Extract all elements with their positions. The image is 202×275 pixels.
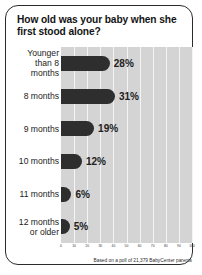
x-axis-ticks: 0102030405060708090100: [61, 244, 192, 253]
bar-value-label: 31%: [119, 91, 139, 102]
gridline: [192, 47, 193, 243]
category-label-line: 12 months: [10, 217, 59, 227]
x-tick-label: 30: [98, 244, 102, 248]
bar-row: 28%: [61, 56, 192, 71]
bar-value-label: 12%: [86, 156, 106, 167]
page-title: How old was your baby when she first sto…: [17, 14, 185, 39]
bar-row: 31%: [61, 89, 192, 104]
x-tick-label: 50: [125, 244, 129, 248]
category-label-line: 9 months: [10, 124, 59, 134]
category-label-line: months: [10, 68, 59, 78]
category-label-line: 8 months: [10, 91, 59, 101]
bar: [61, 187, 71, 202]
bar: [61, 219, 70, 234]
x-tick-label: 10: [72, 244, 76, 248]
category-label: 8 months: [10, 91, 59, 101]
bar-rows: 28%31%19%12%6%5%: [61, 47, 192, 243]
category-label-line: 11 months: [10, 189, 59, 199]
x-tick-label: 100: [189, 244, 195, 248]
x-tick-label: 40: [112, 244, 116, 248]
bar-row: 5%: [61, 219, 192, 234]
bar: [61, 154, 82, 169]
category-label-line: than 8: [10, 58, 59, 68]
x-tick-label: 80: [164, 244, 168, 248]
category-label-line: or older: [10, 227, 59, 237]
category-label: 10 months: [10, 156, 59, 166]
bar-value-label: 5%: [74, 221, 88, 232]
x-tick-label: 20: [85, 244, 89, 248]
bar-row: 19%: [61, 121, 192, 136]
x-tick-label: 70: [151, 244, 155, 248]
x-tick-label: 60: [138, 244, 142, 248]
bar: [61, 121, 94, 136]
bar-value-label: 19%: [98, 123, 118, 134]
x-tick-label: 0: [60, 244, 62, 248]
bar: [61, 89, 115, 104]
x-tick-label: 90: [177, 244, 181, 248]
category-label: 11 months: [10, 189, 59, 199]
category-label: 9 months: [10, 124, 59, 134]
bar-value-label: 28%: [114, 58, 134, 69]
plot-area: 28%31%19%12%6%5%: [61, 47, 192, 243]
chart-footnote: Based on a poll of 21,379 BabyCenter par…: [46, 258, 192, 263]
chart-card: How old was your baby when she first sto…: [5, 5, 193, 265]
category-label: Youngerthan 8months: [10, 48, 59, 78]
category-label-line: Younger: [10, 48, 59, 58]
category-label-line: 10 months: [10, 156, 59, 166]
category-axis-labels: Youngerthan 8months8 months9 months10 mo…: [10, 47, 59, 243]
bar-value-label: 6%: [75, 189, 89, 200]
category-label: 12 monthsor older: [10, 217, 59, 237]
bar-row: 6%: [61, 187, 192, 202]
bar: [61, 56, 110, 71]
bar-row: 12%: [61, 154, 192, 169]
